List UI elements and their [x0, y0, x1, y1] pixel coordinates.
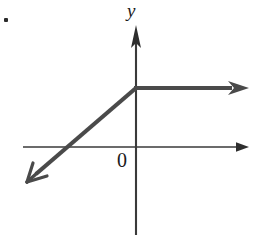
- coordinate-plane-graphic: [0, 0, 261, 235]
- function-curve: [27, 81, 249, 182]
- y-axis-label: y: [127, 1, 135, 20]
- x-axis-arrowhead-icon: [236, 142, 249, 152]
- y-axis: [131, 25, 141, 235]
- graph-figure: y 0: [0, 0, 261, 235]
- origin-label: 0: [117, 150, 127, 170]
